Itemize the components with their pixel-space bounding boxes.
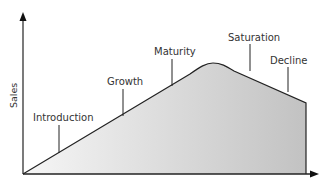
stage-label-growth: Growth (107, 77, 143, 87)
x-axis-arrow-icon (310, 171, 319, 178)
y-axis-arrow-icon (20, 12, 27, 21)
stage-label-decline: Decline (270, 56, 307, 66)
life-cycle-diagram (0, 0, 321, 184)
stage-label-maturity: Maturity (154, 47, 196, 57)
y-axis-label: Sales (8, 83, 19, 108)
stage-label-introduction: Introduction (33, 113, 94, 123)
stage-label-saturation: Saturation (228, 33, 280, 43)
